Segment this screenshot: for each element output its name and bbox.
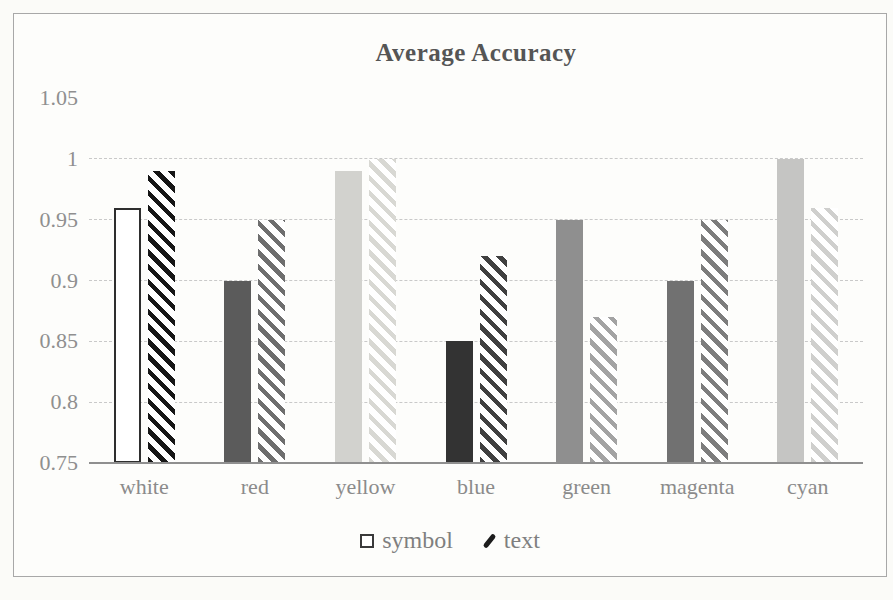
gridline-0.8 [89, 402, 863, 403]
y-tick-label-0.95: 0.95 [8, 209, 78, 231]
gridline-0.95 [89, 219, 863, 220]
y-tick-label-0.8: 0.8 [8, 391, 78, 413]
y-tick-label-0.75: 0.75 [8, 452, 78, 474]
legend-text-slash-marker [482, 533, 496, 549]
bar-white-text [148, 171, 175, 463]
x-category-label-white: white [89, 475, 199, 499]
x-category-label-yellow: yellow [310, 475, 420, 499]
chart-figure: Average Accuracy 1.0510.950.90.850.80.75… [13, 13, 887, 577]
legend-text-label: text [504, 527, 540, 554]
bar-red-symbol [224, 281, 251, 464]
legend-symbol-label: symbol [382, 527, 453, 554]
gridline-1 [89, 158, 863, 159]
y-tick-label-0.85: 0.85 [8, 330, 78, 352]
bar-white-symbol [114, 208, 141, 464]
bar-blue-text [480, 256, 507, 463]
legend-item-symbol: symbol [360, 527, 453, 554]
bar-green-symbol [556, 220, 583, 463]
bar-cyan-text [811, 208, 838, 464]
gridline-0.9 [89, 280, 863, 281]
x-category-label-green: green [532, 475, 642, 499]
x-category-label-cyan: cyan [753, 475, 863, 499]
legend-symbol-square-marker [360, 534, 374, 548]
bar-blue-symbol [446, 341, 473, 463]
bar-magenta-text [701, 220, 728, 463]
bar-red-text [258, 220, 285, 463]
y-tick-label-0.9: 0.9 [8, 270, 78, 292]
gridline-0.85 [89, 341, 863, 342]
plot-area: 1.0510.950.90.850.80.75whiteredyellowblu… [14, 14, 886, 576]
bar-cyan-symbol [777, 159, 804, 463]
x-category-label-magenta: magenta [642, 475, 752, 499]
x-axis-line [89, 462, 863, 464]
bar-yellow-symbol [335, 171, 362, 463]
legend-item-text: text [483, 527, 540, 554]
y-tick-label-1: 1 [8, 148, 78, 170]
bar-yellow-text [369, 159, 396, 463]
x-category-label-red: red [200, 475, 310, 499]
bar-magenta-symbol [667, 281, 694, 464]
x-category-label-blue: blue [421, 475, 531, 499]
legend: symbol text [14, 527, 886, 554]
y-tick-label-1.05: 1.05 [8, 87, 78, 109]
bar-green-text [590, 317, 617, 463]
